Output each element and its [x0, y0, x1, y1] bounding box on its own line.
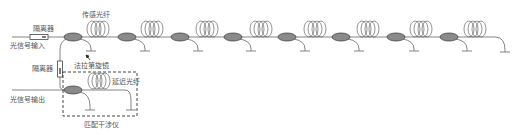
sensing-fiber-coil-icon	[464, 21, 486, 37]
coupler-icon	[224, 33, 242, 41]
tap-branch	[348, 39, 359, 51]
sensing-fiber-coil-icon	[357, 21, 379, 37]
coupler-icon	[64, 86, 82, 94]
isolator-input-label: 隔离器	[33, 26, 54, 33]
end-fiber-tail	[495, 37, 505, 52]
reference-fiber-coil-icon	[88, 73, 110, 89]
tap-branch	[240, 39, 251, 51]
tap-branch	[294, 39, 305, 51]
faraday-mirror-label: 法拉第旋镜	[74, 63, 109, 70]
tap-branch	[403, 39, 414, 51]
reference-fiber-label: 延迟光纤	[112, 79, 140, 86]
sensing-fiber-coil-icon	[141, 21, 163, 37]
tap-branch	[187, 39, 198, 51]
sensing-fiber-label: 传感光纤	[82, 12, 110, 19]
tap-branch	[134, 39, 145, 51]
isolator-output-label: 隔离器	[32, 66, 53, 73]
signal-output-label: 光信号输出	[10, 97, 45, 104]
tap-branch	[456, 39, 467, 51]
coupler-icon	[440, 33, 458, 41]
coupler-icon	[332, 33, 350, 41]
signal-input-label: 光信号输入	[10, 43, 45, 50]
coupler-icon	[64, 33, 82, 41]
coupler-icon	[171, 33, 189, 41]
sensing-fiber-coil-icon	[87, 21, 109, 37]
faraday-mirror-arrow-icon	[86, 55, 90, 60]
sensing-fiber-coil-icon	[410, 21, 432, 37]
coupler-icon	[387, 33, 405, 41]
matched-interferometer-label: 匹配干涉仪	[84, 122, 119, 129]
coupler-icon	[278, 33, 296, 41]
coupler-icon	[118, 33, 136, 41]
sensing-fiber-coil-icon	[304, 21, 326, 37]
tap-branch	[80, 39, 91, 51]
sensing-fiber-coil-icon	[250, 21, 272, 37]
sensing-fiber-coil-icon	[196, 21, 218, 37]
